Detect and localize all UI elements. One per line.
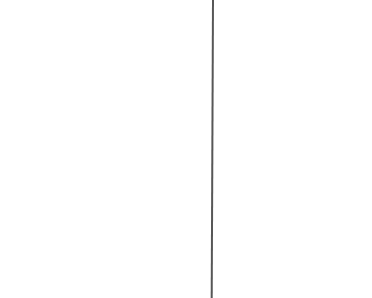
vertical-line (211, 0, 214, 298)
blank-canvas (0, 0, 372, 298)
